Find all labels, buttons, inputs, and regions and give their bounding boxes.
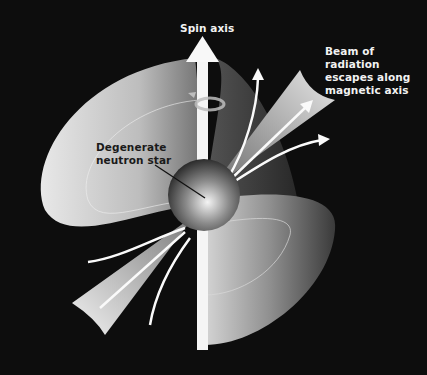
- beam-label: Beam of radiation escapes along magnetic…: [325, 45, 427, 97]
- beam-label-line-2: escapes along: [325, 71, 427, 84]
- beam-label-line-1: Beam of radiation: [325, 45, 427, 71]
- neutron-star-label: Degenerate neutron star: [96, 141, 171, 167]
- neutron-star-label-line-1: Degenerate: [96, 141, 171, 154]
- spin-axis-arrowhead: [186, 36, 219, 62]
- neutron-star-label-line-2: neutron star: [96, 154, 171, 167]
- radiation-beam-bottom-left: [72, 215, 195, 335]
- beam-label-line-3: magnetic axis: [325, 84, 427, 97]
- pulsar-diagram: Spin axis Beam of radiation escapes alon…: [0, 0, 427, 375]
- spin-axis-label: Spin axis: [180, 22, 234, 35]
- neutron-star-sphere: [168, 159, 240, 231]
